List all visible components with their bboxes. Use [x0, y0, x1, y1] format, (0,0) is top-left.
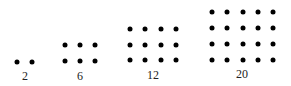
dot: [271, 26, 276, 31]
dot: [225, 26, 230, 31]
dot: [158, 58, 163, 63]
dot: [173, 58, 178, 63]
dot: [63, 43, 68, 48]
dot: [158, 27, 163, 32]
dot: [78, 43, 83, 48]
dot: [240, 58, 245, 63]
dot: [173, 27, 178, 32]
dot: [143, 42, 148, 47]
dot: [128, 27, 133, 32]
dot: [93, 59, 98, 64]
group-label-2: 2: [22, 69, 28, 84]
dot: [225, 10, 230, 15]
dot: [78, 59, 83, 64]
group-label-12: 12: [147, 68, 159, 83]
dot: [30, 60, 35, 65]
dot: [173, 42, 178, 47]
dot: [143, 58, 148, 63]
group-label-6: 6: [77, 69, 83, 84]
dot: [210, 26, 215, 31]
dot: [271, 42, 276, 47]
dot: [240, 10, 245, 15]
dot: [158, 42, 163, 47]
dot: [225, 58, 230, 63]
dot: [128, 42, 133, 47]
dot: [225, 42, 230, 47]
dot: [240, 26, 245, 31]
dot: [93, 43, 98, 48]
dot: [255, 10, 260, 15]
dot: [255, 42, 260, 47]
dot: [143, 27, 148, 32]
dot: [210, 42, 215, 47]
dot: [63, 59, 68, 64]
dot: [271, 58, 276, 63]
dot: [210, 10, 215, 15]
dot: [210, 58, 215, 63]
dot: [15, 60, 20, 65]
dot: [128, 58, 133, 63]
dot: [255, 26, 260, 31]
dot: [271, 10, 276, 15]
dot: [240, 42, 245, 47]
group-label-20: 20: [236, 67, 248, 82]
dot: [255, 58, 260, 63]
